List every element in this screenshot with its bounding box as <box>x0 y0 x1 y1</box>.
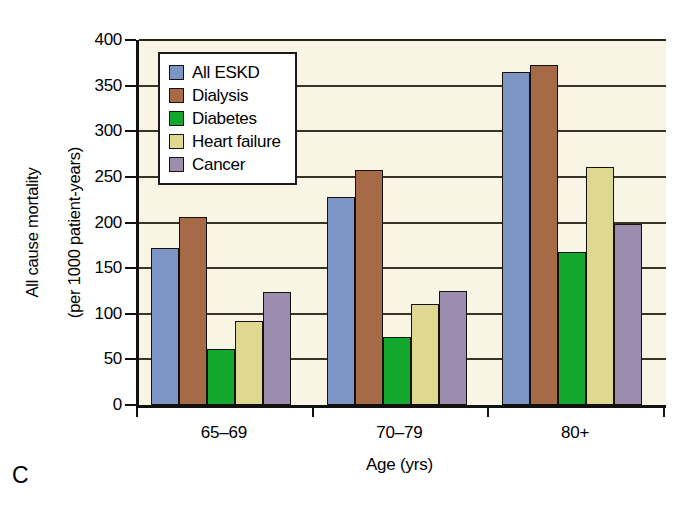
y-axis-tick <box>125 313 136 315</box>
figure-panel-c: All cause mortality (per 1000 patient-ye… <box>0 0 694 507</box>
y-axis-tick <box>125 39 136 41</box>
bar <box>179 217 207 405</box>
legend-swatch-icon <box>169 65 184 80</box>
legend-swatch-icon <box>169 111 184 126</box>
legend-item: Heart failure <box>169 130 281 153</box>
y-axis-tick-label: 400 <box>56 31 122 48</box>
legend-item-label: Dialysis <box>192 87 248 104</box>
y-axis-tick-label: 150 <box>56 259 122 276</box>
x-axis-tick <box>136 406 138 417</box>
bar <box>235 321 263 405</box>
legend-swatch-icon <box>169 134 184 149</box>
y-axis-tick <box>125 358 136 360</box>
y-axis-tick-label: 250 <box>56 168 122 185</box>
bar <box>327 197 355 405</box>
bar <box>558 252 586 405</box>
legend-item-label: Heart failure <box>192 133 281 150</box>
x-axis-tick <box>663 406 665 417</box>
bar <box>439 291 467 405</box>
y-axis-tick-label: 350 <box>56 77 122 94</box>
bar <box>355 170 383 405</box>
y-axis-tick <box>125 85 136 87</box>
bar <box>411 304 439 405</box>
x-axis-tick-label: 80+ <box>487 423 663 443</box>
bar <box>263 292 291 405</box>
y-axis-tick <box>125 404 136 406</box>
bar <box>502 72 530 405</box>
legend-item-label: All ESKD <box>192 64 260 81</box>
y-axis-tick-label: 200 <box>56 214 122 231</box>
gridline <box>139 39 666 41</box>
legend-swatch-icon <box>169 157 184 172</box>
y-axis-tick-label: 50 <box>56 350 122 367</box>
legend-item: All ESKD <box>169 61 281 84</box>
y-axis-tick <box>125 222 136 224</box>
x-axis-tick <box>312 406 314 417</box>
bar <box>207 349 235 405</box>
legend-item: Dialysis <box>169 84 281 107</box>
panel-letter: C <box>12 462 29 489</box>
x-axis-tick-label: 70–79 <box>312 423 488 443</box>
legend-item: Diabetes <box>169 107 281 130</box>
bar <box>614 224 642 405</box>
y-axis-title-line-1: All cause mortality <box>22 68 43 398</box>
legend-swatch-icon <box>169 88 184 103</box>
y-axis-tick-labels: 050100150200250300350400 <box>56 40 122 405</box>
y-axis-tick <box>125 176 136 178</box>
x-axis-title: Age (yrs) <box>136 455 663 475</box>
bar <box>383 337 411 405</box>
y-axis-tick-label: 300 <box>56 122 122 139</box>
bar <box>530 65 558 405</box>
legend-item-label: Cancer <box>192 156 245 173</box>
x-axis-tick-label: 65–69 <box>136 423 312 443</box>
legend-item-label: Diabetes <box>192 110 257 127</box>
y-axis-tick-label: 0 <box>56 396 122 413</box>
bar <box>586 167 614 405</box>
y-axis-tick-label: 100 <box>56 305 122 322</box>
y-axis-tick <box>125 267 136 269</box>
y-axis-tick <box>125 130 136 132</box>
bar <box>151 248 179 405</box>
x-axis-tick <box>487 406 489 417</box>
legend-item: Cancer <box>169 153 281 176</box>
legend: All ESKDDialysisDiabetesHeart failureCan… <box>158 52 297 185</box>
